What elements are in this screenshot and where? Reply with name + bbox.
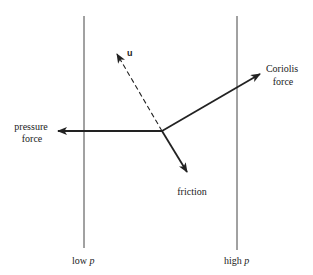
coriolis-force-arrow: [162, 74, 260, 131]
pressure-label-line1: pressure: [14, 121, 48, 132]
low-p-text: low: [72, 255, 90, 266]
high-p-text: high: [224, 255, 244, 266]
friction-arrow: [162, 131, 187, 172]
high-p-var: p: [243, 255, 249, 266]
velocity-vector-u: [117, 54, 162, 131]
low-p-label: low p: [72, 255, 95, 266]
friction-label: friction: [177, 186, 206, 197]
u-label: u: [127, 48, 133, 58]
pressure-label-line2: force: [22, 133, 43, 144]
low-p-var: p: [89, 255, 95, 266]
high-p-label: high p: [224, 255, 249, 266]
force-balance-diagram: u Coriolis force pressure force friction…: [0, 0, 313, 275]
coriolis-label-line2: force: [273, 76, 294, 87]
coriolis-label-line1: Coriolis: [266, 63, 298, 74]
